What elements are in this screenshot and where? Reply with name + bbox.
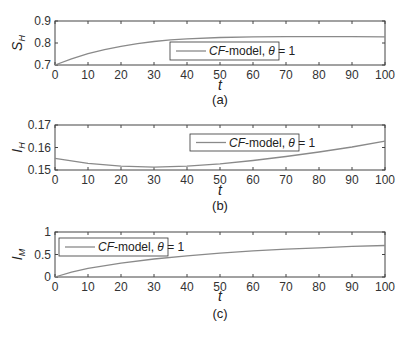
x-tick-label: 30 bbox=[147, 68, 161, 82]
y-tick-label: 0.15 bbox=[28, 163, 52, 177]
panel-caption: (c) bbox=[212, 306, 227, 321]
y-axis-label: IH bbox=[9, 142, 27, 153]
x-tick-label: 90 bbox=[345, 173, 359, 187]
x-tick-label: 100 bbox=[375, 68, 395, 82]
x-tick-label: 60 bbox=[246, 68, 260, 82]
panel-3: 010203040506070809010000.51CF-model, θ =… bbox=[9, 225, 395, 321]
x-tick-label: 100 bbox=[375, 173, 395, 187]
y-tick-label: 0.16 bbox=[28, 141, 52, 155]
x-tick-label: 10 bbox=[81, 68, 95, 82]
legend-label: CF-model, θ = 1 bbox=[229, 136, 316, 150]
x-tick-label: 60 bbox=[246, 173, 260, 187]
x-tick-label: 20 bbox=[114, 173, 128, 187]
x-tick-label: 70 bbox=[279, 68, 293, 82]
y-tick-label: 0.8 bbox=[34, 36, 51, 50]
x-tick-label: 100 bbox=[375, 280, 395, 294]
y-tick-label: 0 bbox=[44, 270, 51, 284]
panel-1: 01020304050607080901000.70.80.9CF-model,… bbox=[9, 14, 395, 107]
y-tick-label: 0.17 bbox=[28, 118, 52, 132]
legend-label: CF-model, θ = 1 bbox=[98, 240, 185, 254]
legend: CF-model, θ = 1 bbox=[59, 238, 185, 256]
legend: CF-model, θ = 1 bbox=[170, 42, 296, 60]
legend-label: CF-model, θ = 1 bbox=[209, 44, 296, 58]
x-tick-label: 80 bbox=[312, 68, 326, 82]
x-tick-label: 90 bbox=[345, 68, 359, 82]
x-tick-label: 20 bbox=[114, 68, 128, 82]
x-tick-label: 80 bbox=[312, 280, 326, 294]
x-tick-label: 30 bbox=[147, 280, 161, 294]
x-tick-label: 60 bbox=[246, 280, 260, 294]
x-tick-label: 10 bbox=[81, 173, 95, 187]
x-tick-label: 70 bbox=[279, 173, 293, 187]
x-tick-label: 40 bbox=[180, 68, 194, 82]
x-tick-label: 30 bbox=[147, 173, 161, 187]
x-tick-label: 0 bbox=[52, 280, 59, 294]
x-tick-label: 0 bbox=[52, 173, 59, 187]
panel-caption: (b) bbox=[212, 198, 228, 213]
y-tick-label: 1 bbox=[44, 225, 51, 239]
x-tick-label: 40 bbox=[180, 280, 194, 294]
y-tick-label: 0.9 bbox=[34, 14, 51, 28]
x-tick-label: 80 bbox=[312, 173, 326, 187]
x-tick-label: 10 bbox=[81, 280, 95, 294]
legend: CF-model, θ = 1 bbox=[190, 134, 316, 151]
x-tick-label: 40 bbox=[180, 173, 194, 187]
x-tick-label: 90 bbox=[345, 280, 359, 294]
figure: 01020304050607080901000.70.80.9CF-model,… bbox=[0, 0, 410, 341]
y-tick-label: 0.7 bbox=[34, 58, 51, 72]
x-tick-label: 20 bbox=[114, 280, 128, 294]
y-axis-label: IM bbox=[9, 248, 27, 260]
y-axis-label: SH bbox=[9, 35, 27, 51]
panel-caption: (a) bbox=[212, 92, 228, 107]
x-tick-label: 0 bbox=[52, 68, 59, 82]
x-tick-label: 70 bbox=[279, 280, 293, 294]
panel-2: 01020304050607080901000.150.160.17CF-mod… bbox=[9, 118, 395, 213]
y-tick-label: 0.5 bbox=[34, 248, 51, 262]
